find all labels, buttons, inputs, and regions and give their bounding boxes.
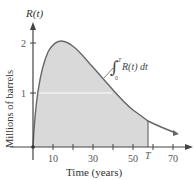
x-tick-label-30: 30 bbox=[88, 153, 98, 164]
y-tick-label-1: 1 bbox=[21, 88, 26, 99]
x-tick-label-50: 50 bbox=[128, 153, 138, 164]
x-tick-label-T: T bbox=[145, 150, 152, 161]
y-axis-symbol: R(t) bbox=[25, 7, 43, 20]
integral-lower: 0 bbox=[115, 75, 118, 81]
integral-body: R(t) dt bbox=[121, 61, 148, 73]
x-tick-label-10: 10 bbox=[48, 153, 58, 164]
y-tick-label-2: 2 bbox=[21, 38, 26, 49]
curve-arrow-icon bbox=[173, 130, 179, 136]
y-axis-arrow-icon bbox=[30, 22, 36, 30]
y-axis-title: Millions of barrels bbox=[4, 70, 15, 148]
chart: R(t) 2 1 Millions of barrels 10 30 50 T … bbox=[0, 0, 195, 180]
x-axis-title: Time (years) bbox=[66, 166, 122, 179]
x-tick-label-70: 70 bbox=[168, 153, 178, 164]
origin-dot bbox=[31, 145, 35, 149]
x-axis-arrow-icon bbox=[185, 144, 193, 150]
shaded-area bbox=[33, 41, 148, 147]
